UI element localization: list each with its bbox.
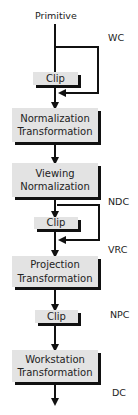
- clip-box-1: Clip: [33, 72, 78, 85]
- workstation-transformation-line1: Workstation: [12, 353, 98, 367]
- viewing-normalization-line1: Viewing: [12, 167, 98, 181]
- clip-1-label: Clip: [33, 72, 78, 86]
- clip-3-label: Clip: [35, 310, 78, 324]
- clip-box-3: Clip: [35, 310, 78, 323]
- normalization-transformation-box: Normalization Transformation: [12, 108, 98, 142]
- ndc-label: NDC: [108, 197, 129, 207]
- projection-transformation-line2: Transformation: [12, 272, 98, 286]
- wc-label: WC: [108, 33, 124, 43]
- vrc-label: VRC: [108, 245, 127, 255]
- workstation-transformation-line2: Transformation: [12, 366, 98, 380]
- viewing-normalization-line2: Normalization: [12, 180, 98, 194]
- normalization-transformation-line2: Transformation: [12, 125, 98, 139]
- npc-label: NPC: [110, 310, 129, 320]
- workstation-transformation-box: Workstation Transformation: [12, 350, 98, 382]
- clip-box-2: Clip: [34, 217, 78, 229]
- normalization-transformation-line1: Normalization: [12, 112, 98, 126]
- viewing-normalization-box: Viewing Normalization: [12, 163, 98, 197]
- clip-2-label: Clip: [34, 216, 78, 230]
- projection-transformation-line1: Projection: [12, 258, 98, 272]
- dc-label: DC: [112, 388, 126, 398]
- projection-transformation-box: Projection Transformation: [12, 256, 98, 287]
- primitive-label: Primitive: [35, 11, 77, 21]
